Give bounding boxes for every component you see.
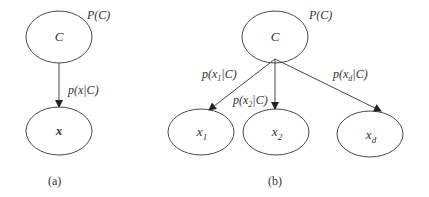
edge-label-x1: p(x1|C): [202, 67, 237, 83]
edge-label-xd: p(xd|C): [333, 67, 368, 83]
edge-label-a: p(x|C): [68, 83, 99, 98]
node-c-b-label: C: [265, 29, 285, 45]
edge-label-x2: p(x2|C): [233, 93, 268, 109]
node-c-a-label: C: [49, 29, 69, 45]
node-x2-label: x2: [265, 124, 289, 142]
caption-b: (b): [268, 174, 282, 189]
prior-label-b: P(C): [309, 8, 332, 23]
node-xd-label: xd: [359, 127, 383, 145]
node-x1-label: x1: [190, 124, 214, 142]
node-x-a-label: x: [49, 123, 69, 139]
prior-label-a: P(C): [87, 8, 110, 23]
caption-a: (a): [48, 174, 61, 189]
